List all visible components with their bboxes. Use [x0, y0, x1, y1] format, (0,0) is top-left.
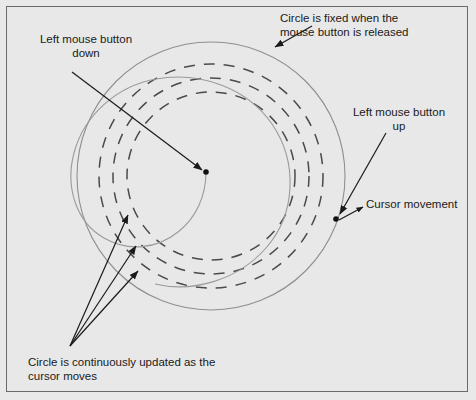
annotation-cursor-movement: Cursor movement: [366, 198, 457, 212]
annotation-circle-fixed: Circle is fixed when the mouse button is…: [280, 12, 409, 39]
diagram-figure: Circle is fixed when the mouse button is…: [0, 0, 476, 400]
intermediate-circle-inner: [127, 92, 295, 260]
updated-leader-line-2: [70, 246, 136, 346]
drag-spiral: [71, 77, 290, 287]
final-circle: [77, 42, 345, 310]
annotation-mouse-down: Left mouse button down: [20, 33, 152, 60]
intermediate-circle-middle: [113, 78, 309, 274]
annotation-continuously-updated: Circle is continuously updated as the cu…: [28, 356, 215, 383]
mouse-down-point: [203, 169, 209, 175]
mouse-up-point: [333, 216, 339, 222]
annotation-mouse-up: Left mouse button up: [337, 106, 461, 133]
updated-leader-line-3: [70, 271, 138, 346]
mouse-down-leader-line: [72, 72, 202, 170]
